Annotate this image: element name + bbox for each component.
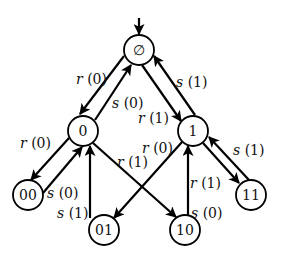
- node-0-label: 0: [79, 123, 88, 139]
- node-1-label: 1: [189, 123, 198, 139]
- label-11-to-1: s (1): [233, 142, 264, 158]
- label-0-to-10: r (1): [117, 154, 148, 170]
- node-00: 00: [13, 180, 43, 210]
- label-1-to-01: r (0): [142, 140, 173, 156]
- label-0-to-00: r (0): [20, 135, 51, 151]
- node-00-label: 00: [19, 187, 37, 203]
- node-11: 11: [236, 180, 266, 210]
- label-empty-to-0: r (0): [76, 71, 107, 87]
- node-0: 0: [68, 116, 98, 146]
- node-10-label: 10: [176, 222, 194, 238]
- node-empty-label: ∅: [133, 42, 145, 58]
- node-1: 1: [178, 116, 208, 146]
- label-empty-to-1: r (1): [138, 110, 169, 126]
- label-0-to-empty: s (0): [112, 95, 143, 111]
- state-diagram: ∅ 0 1 00 01 10 11 r (0) s (0) r (1) s (1…: [0, 0, 281, 263]
- label-10-to-1: s (0): [191, 205, 222, 221]
- node-01-label: 01: [95, 222, 113, 238]
- label-1-to-11: r (1): [190, 175, 221, 191]
- label-1-to-empty: s (1): [176, 74, 207, 90]
- label-00-to-0: s (0): [47, 185, 78, 201]
- label-01-to-0: s (1): [57, 205, 88, 221]
- node-11-label: 11: [242, 187, 260, 203]
- node-empty: ∅: [124, 35, 154, 65]
- node-01: 01: [89, 215, 119, 245]
